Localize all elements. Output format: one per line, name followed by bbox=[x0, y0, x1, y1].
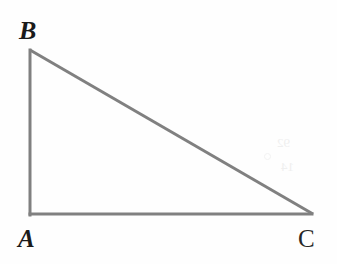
triangle-side-bc-hypotenuse bbox=[30, 50, 313, 214]
scan-artifact-top: 92 bbox=[277, 136, 290, 149]
triangle-drawing bbox=[0, 0, 337, 264]
vertex-label-a: A bbox=[18, 226, 35, 251]
scan-artifact-dot bbox=[264, 153, 271, 160]
scan-artifact-bottom: 14 bbox=[281, 160, 294, 173]
vertex-label-c: C bbox=[298, 226, 315, 251]
vertex-label-b: B bbox=[19, 18, 36, 44]
geometry-figure: B A C 92 14 bbox=[0, 0, 337, 264]
